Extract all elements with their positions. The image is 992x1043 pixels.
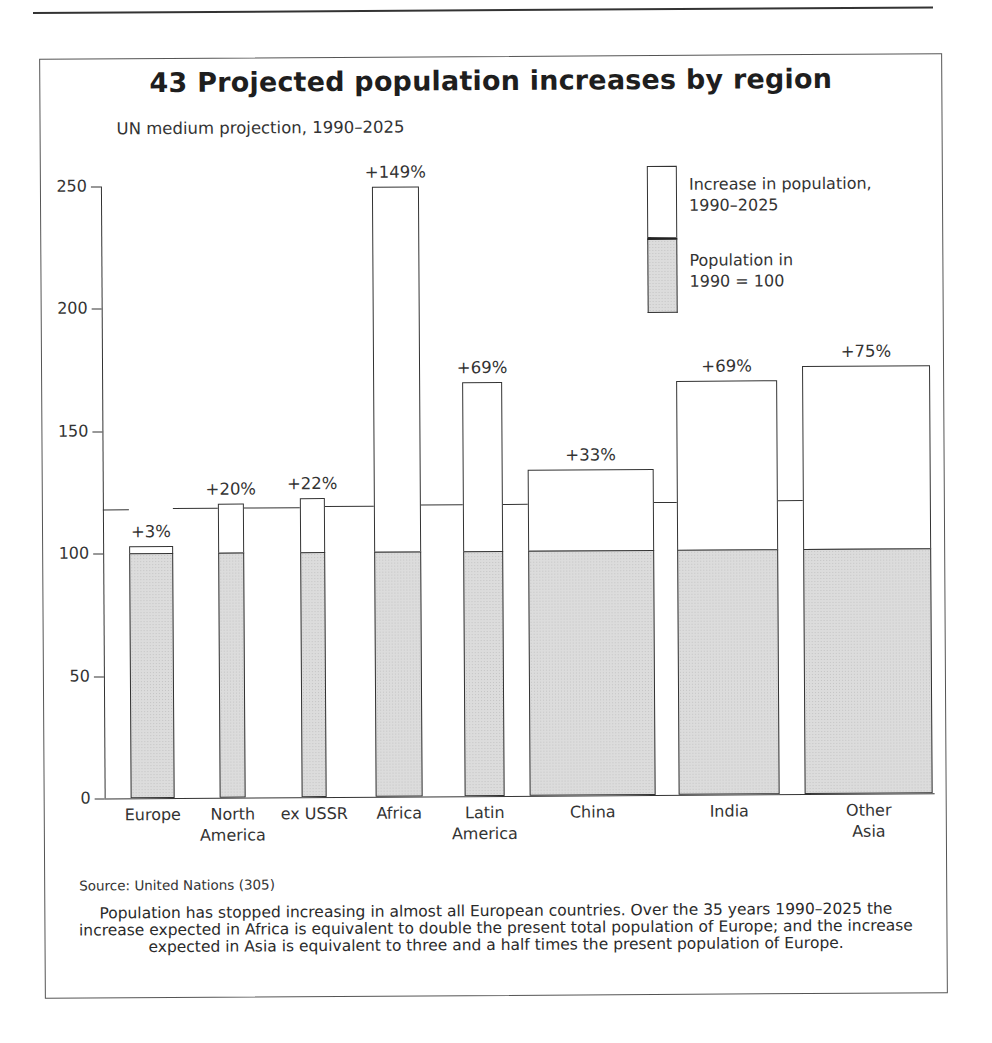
bar-other-asia xyxy=(802,365,933,794)
legend: Increase in population, 1990–2025 Popula… xyxy=(647,164,908,316)
y-tick xyxy=(92,431,102,432)
bar-africa xyxy=(372,187,423,797)
figure-frame: 43 Projected population increases by reg… xyxy=(39,53,948,998)
bar-segment-base xyxy=(129,553,174,798)
bar-segment-increase xyxy=(300,498,325,553)
bar-value-label: +20% xyxy=(191,480,271,499)
bar-segment-base xyxy=(677,549,779,794)
bar-value-label: +33% xyxy=(551,446,631,465)
bar-segment-base xyxy=(803,549,932,795)
bar-value-label: +149% xyxy=(355,163,435,182)
legend-base-line1: Population in xyxy=(689,249,793,271)
bar-segment-base xyxy=(300,552,326,797)
bar-china xyxy=(528,469,656,795)
legend-increase-line1: Increase in population, xyxy=(689,173,872,195)
bar-segment-increase xyxy=(372,187,421,553)
x-category-label: LatinAmerica xyxy=(435,802,535,845)
y-axis xyxy=(101,186,106,798)
bar-segment-increase xyxy=(462,382,503,552)
bar-value-label: +75% xyxy=(826,341,906,360)
bar-north-america xyxy=(218,504,246,798)
reference-line-segment xyxy=(325,506,374,507)
bar-india xyxy=(676,381,780,795)
y-tick xyxy=(92,309,102,310)
x-category-label: OtherAsia xyxy=(819,799,919,842)
y-tick-label: 250 xyxy=(41,176,87,195)
page-top-rule xyxy=(33,7,933,14)
y-tick xyxy=(91,186,101,187)
bar-value-label: +3% xyxy=(111,522,191,541)
bar-segment-increase xyxy=(218,504,244,554)
x-category-label: India xyxy=(679,800,779,822)
y-tick-label: 50 xyxy=(44,666,90,685)
reference-line-segment xyxy=(778,500,803,501)
legend-base-line2: 1990 = 100 xyxy=(689,270,784,292)
source-note: Source: United Nations (305) xyxy=(79,876,275,893)
y-tick xyxy=(93,554,103,555)
bar-europe xyxy=(129,546,175,798)
reference-line-segment xyxy=(244,507,300,508)
legend-swatch-base xyxy=(647,238,677,313)
reference-line-segment xyxy=(503,503,528,504)
y-tick-label: 200 xyxy=(42,299,88,318)
reference-line-segment xyxy=(173,508,218,509)
bar-value-label: +22% xyxy=(272,474,352,493)
y-tick xyxy=(94,676,104,677)
bar-value-label: +69% xyxy=(686,357,766,376)
bar-segment-base xyxy=(528,550,655,796)
reference-line-segment xyxy=(421,505,463,506)
reference-line-segment xyxy=(103,509,129,510)
legend-swatch-increase xyxy=(647,166,677,238)
bar-segment-increase xyxy=(802,365,931,550)
bar-segment-base xyxy=(374,552,422,797)
bar-segment-increase xyxy=(528,469,654,552)
y-tick-label: 0 xyxy=(45,788,91,807)
reference-line-segment xyxy=(654,502,677,503)
y-tick xyxy=(95,798,105,799)
legend-increase-line2: 1990–2025 xyxy=(689,194,779,216)
bar-segment-base xyxy=(218,553,245,798)
bar-ex-ussr xyxy=(300,498,327,797)
bar-value-label: +69% xyxy=(442,358,522,377)
y-tick-label: 100 xyxy=(43,544,89,563)
bar-latin-america xyxy=(462,382,505,796)
x-category-label: China xyxy=(543,801,643,823)
bar-segment-base xyxy=(463,551,504,796)
bar-segment-increase xyxy=(676,381,778,552)
caption: Population has stopped increasing in alm… xyxy=(65,900,926,956)
y-tick-label: 150 xyxy=(42,421,88,440)
